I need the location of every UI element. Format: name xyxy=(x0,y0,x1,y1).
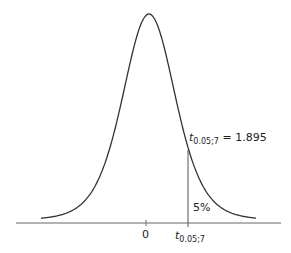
crit-annotation: t0.05;7 = 1.895 xyxy=(189,131,267,146)
zero-tick-label: 0 xyxy=(142,228,149,241)
density-curve xyxy=(41,14,256,218)
crit-tick-subscript: 0.05;7 xyxy=(179,235,205,244)
tail-area-label: 5% xyxy=(193,201,210,214)
crit-annot-subscript: 0.05;7 xyxy=(193,137,219,146)
t-distribution-chart xyxy=(0,0,291,253)
crit-tick-label: t0.05;7 xyxy=(175,229,205,244)
crit-annot-value: = 1.895 xyxy=(219,131,267,144)
